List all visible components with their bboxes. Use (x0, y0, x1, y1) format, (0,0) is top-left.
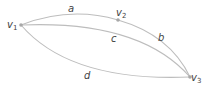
vertex-v1 (19, 23, 23, 27)
vertex-label-sub: 2 (122, 12, 126, 20)
edge-label-b: b (158, 33, 164, 43)
vertex-v2 (116, 18, 120, 22)
graph-edges (0, 0, 203, 86)
vertex-label-sub: 1 (13, 24, 17, 32)
vertex-label-v2: v2 (116, 8, 126, 18)
vertex-label-sub: 3 (197, 77, 201, 85)
edge-label-d: d (84, 71, 90, 81)
edge-label-a: a (68, 4, 74, 14)
edge-label-c: c (111, 34, 117, 44)
vertex-label-v3: v3 (191, 73, 201, 83)
graph-diagram: v1 v2 v3 a b c d (0, 0, 203, 86)
edge-c (21, 25, 190, 77)
edge-a (21, 14, 118, 25)
edge-d (21, 25, 190, 77)
vertex-label-v1: v1 (7, 20, 17, 30)
